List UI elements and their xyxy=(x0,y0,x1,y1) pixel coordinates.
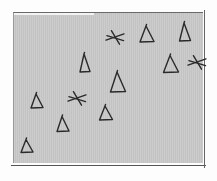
triangle-icon xyxy=(164,54,179,73)
triangle-icon xyxy=(57,115,69,132)
asterisk-icon xyxy=(188,56,206,69)
triangle-icon xyxy=(100,105,113,121)
triangle-icon xyxy=(140,25,154,43)
triangle-icon xyxy=(80,53,90,73)
triangle-icon xyxy=(21,138,33,153)
asterisk-icon xyxy=(68,92,86,106)
sketch-canvas xyxy=(0,0,217,181)
shapes-layer xyxy=(0,0,217,181)
triangle-icon xyxy=(180,22,191,42)
triangle-icon xyxy=(31,93,43,109)
asterisk-icon xyxy=(106,31,124,45)
triangle-icon xyxy=(111,71,126,93)
